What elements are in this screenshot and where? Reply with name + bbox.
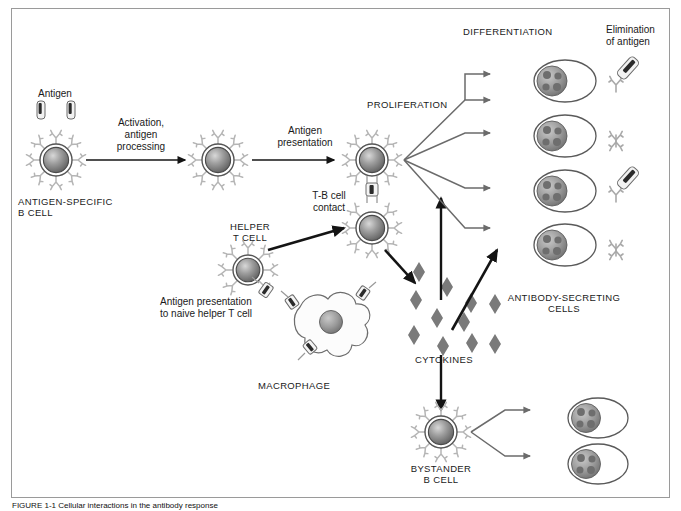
proliferation-branch-lines: [404, 74, 490, 228]
label-proliferation: PROLIFERATION: [367, 99, 447, 110]
b-cell-icon-bystander: [411, 402, 470, 461]
immunology-diagram-canvas: [0, 0, 681, 511]
label-activation-antigen-processing: Activation, antigen processing: [98, 117, 184, 152]
label-antigen: Antigen: [38, 88, 72, 100]
label-tb-cell-contact: T-B cell contact: [296, 190, 362, 214]
arrow-icon-tcell-to-cytokines: [385, 250, 415, 283]
antibody-icon-free-2: [609, 240, 623, 259]
label-antigen-specific-b-cell: ANTIGEN-SPECIFIC B CELL: [18, 196, 113, 218]
label-helper-t-cell: HELPER T CELL: [215, 221, 285, 243]
plasma-cell-icon-1: [534, 60, 596, 102]
cytokine-diamond-icon-group: [408, 262, 501, 356]
label-elimination-of-antigen: Elimination of antigen: [606, 24, 655, 48]
plasma-cell-icon-2: [534, 115, 596, 157]
antibody-icon-with-antigen-2: [609, 165, 640, 202]
label-macrophage: MACROPHAGE: [258, 380, 330, 391]
b-cell-icon-activated: [188, 130, 247, 189]
mhc-peptide-complex-icon-macrophage: [252, 277, 274, 298]
label-differentiation: DIFFERENTIATION: [463, 26, 553, 37]
label-antigen-presentation-naive: Antigen presentation to naive helper T c…: [160, 296, 252, 320]
label-antibody-secreting-cells: ANTIBODY-SECRETING CELLS: [497, 292, 631, 314]
plasma-cell-icon-6: [568, 444, 628, 484]
figure-caption: FIGURE 1-1 Cellular interactions in the …: [12, 501, 672, 511]
mhc-peptide-complex-icon: [366, 176, 378, 203]
label-bystander-b-cell: BYSTANDER B CELL: [400, 463, 482, 485]
arrow-icon-cytokines-to-differentiation: [452, 250, 497, 330]
plasma-cell-icon-4: [534, 224, 596, 266]
antigen-icon-group: [37, 101, 75, 119]
label-antigen-presentation: Antigen presentation: [262, 125, 348, 149]
antibody-icon-free-1: [609, 131, 623, 150]
macrophage-icon: [281, 282, 376, 360]
label-cytokines: CYTOKINES: [415, 354, 473, 365]
b-cell-icon-antigen-specific: [26, 130, 85, 189]
bystander-branch-lines: [471, 410, 530, 456]
plasma-cell-icon-5: [568, 398, 628, 438]
b-cell-icon-presenting: [342, 130, 401, 185]
plasma-cell-icon-3: [534, 170, 596, 212]
antibody-icon-with-antigen-1: [609, 55, 640, 92]
